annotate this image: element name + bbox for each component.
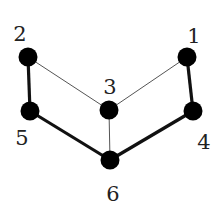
node-label-4: 4	[197, 130, 210, 154]
graph-diagram: 123456	[0, 0, 219, 211]
node-1	[178, 48, 197, 67]
node-label-2: 2	[13, 22, 26, 46]
node-label-5: 5	[15, 126, 28, 150]
node-label-3: 3	[103, 75, 116, 99]
node-5	[21, 102, 40, 121]
node-3	[100, 101, 119, 120]
edge-5-6	[30, 111, 110, 160]
edge-6-4	[110, 111, 193, 160]
node-label-1: 1	[187, 24, 200, 48]
node-6	[101, 151, 120, 170]
node-label-6: 6	[106, 182, 119, 206]
edge-2-3	[28, 57, 109, 110]
node-2	[19, 48, 38, 67]
edge-3-1	[109, 57, 187, 110]
node-4	[184, 102, 203, 121]
